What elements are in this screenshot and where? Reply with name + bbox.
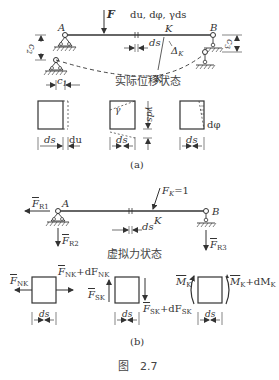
- reaction-r2-label: FR2: [61, 235, 79, 248]
- svg-text:ds: ds: [116, 134, 128, 145]
- element-axial-a: ds du: [38, 101, 82, 150]
- figure-caption: 图 2.7: [118, 360, 158, 373]
- svg-text:dφ: dφ: [207, 119, 220, 130]
- support-b-label-b: B: [211, 206, 219, 217]
- part-b-label: (b): [130, 336, 144, 347]
- svg-text:γds: γds: [145, 106, 155, 122]
- support-a-label: A: [57, 22, 65, 33]
- ds-label-b: ds: [142, 221, 154, 232]
- point-k-label-b: K: [153, 215, 162, 226]
- c3-label: c3: [223, 39, 236, 50]
- point-k-label: K: [164, 23, 173, 34]
- c1-label: c1: [57, 75, 67, 88]
- support-a-displaced-icon: [44, 58, 67, 76]
- svg-text:FSK+dFSK: FSK+dFSK: [142, 303, 192, 316]
- deflection-curve: [56, 52, 207, 76]
- unit-load-arrow-icon: [153, 188, 160, 209]
- ds-label-a: ds: [149, 37, 161, 48]
- svg-text:ds: ds: [205, 309, 216, 319]
- displacement-label: ΔK: [170, 45, 184, 58]
- svg-text:MK: MK: [175, 276, 192, 289]
- svg-text:FNK: FNK: [9, 275, 29, 288]
- load-label: F: [106, 8, 116, 21]
- element-bending-a: dφ ds: [180, 101, 220, 150]
- svg-text:FSK: FSK: [87, 289, 106, 302]
- svg-text:du: du: [69, 134, 82, 145]
- svg-text:ds: ds: [122, 309, 133, 319]
- svg-text:ds: ds: [186, 134, 198, 145]
- support-a-label-b: A: [61, 198, 69, 209]
- part-a-title: 实际位移状态: [115, 74, 181, 88]
- svg-text:γ: γ: [115, 105, 121, 115]
- svg-text:MK+dMK: MK+dMK: [229, 276, 277, 289]
- deformation-label: du, dφ, γds: [130, 9, 186, 20]
- support-b-label: B: [209, 22, 217, 33]
- figure-2-7: F du, dφ, γds A c2: [0, 0, 279, 380]
- reaction-r1-label: FR1: [31, 198, 49, 211]
- part-b-virtual-force: FK=1 A FR1 FR2 B: [9, 185, 277, 347]
- svg-text:ds: ds: [44, 134, 56, 145]
- part-a-actual-displacement: F du, dφ, γds A c2: [25, 8, 242, 170]
- part-b-title: 虚拟力状态: [107, 247, 162, 261]
- element-shear-a: γ γds ds: [110, 101, 155, 150]
- svg-text:ds: ds: [39, 309, 50, 319]
- unit-load-label: FK=1: [161, 185, 189, 198]
- reaction-r3-label: FR3: [209, 239, 227, 252]
- support-b-displaced-icon: [196, 50, 215, 70]
- element-moment-b: MK MK+dMK ds: [175, 274, 277, 325]
- svg-text:FNK+dFNK: FNK+dFNK: [57, 266, 110, 279]
- part-a-label: (a): [130, 159, 144, 170]
- c2-label: c2: [25, 44, 38, 55]
